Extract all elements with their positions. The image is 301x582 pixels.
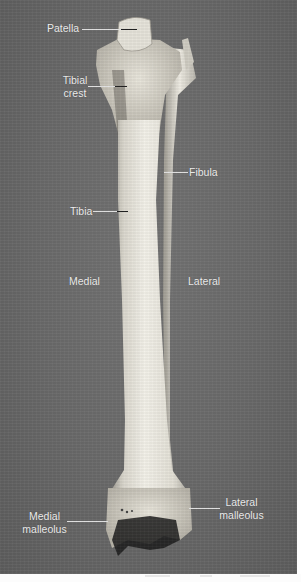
leader-line-fibula <box>164 172 188 173</box>
bone-photograph: Patella Tibial crest Fibula Tibia Medial… <box>0 0 297 574</box>
label-medial-malleolus: Medial malleolus <box>22 510 67 535</box>
leader-line-medial-malleolus <box>67 521 108 522</box>
leader-line-lateral-malleolus <box>189 508 220 509</box>
label-medial-side: Medial <box>69 275 100 288</box>
tibia-bone <box>108 120 190 532</box>
label-fibula: Fibula <box>189 166 218 179</box>
tibia-fibula-illustration <box>0 0 297 574</box>
label-tibial-crest-line1: Tibial <box>60 74 90 87</box>
label-patella: Patella <box>47 22 79 35</box>
bottom-margin <box>0 574 301 582</box>
leader-line-patella <box>82 29 137 30</box>
label-medial-malleolus-line1: Medial <box>22 510 67 523</box>
label-tibial-crest: Tibial crest <box>60 74 90 99</box>
leader-line-tibial-crest <box>88 86 127 87</box>
label-lateral-side: Lateral <box>188 275 220 288</box>
label-medial-malleolus-line2: malleolus <box>22 523 67 536</box>
label-tibial-crest-line2: crest <box>60 87 90 100</box>
label-lateral-malleolus-line1: Lateral <box>218 496 265 509</box>
label-lateral-malleolus-line2: malleolus <box>218 509 265 522</box>
label-lateral-malleolus: Lateral malleolus <box>218 496 265 521</box>
patella-bone <box>117 17 152 51</box>
leader-line-tibia <box>93 211 128 212</box>
label-tibia: Tibia <box>70 205 92 218</box>
